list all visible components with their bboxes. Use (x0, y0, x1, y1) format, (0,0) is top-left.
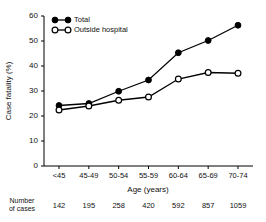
number-of-cases-value: 1059 (230, 201, 247, 210)
legend-label: Outside hospital (74, 25, 128, 34)
y-tick-label: 50 (29, 36, 38, 45)
y-tick-label: 20 (29, 111, 38, 120)
number-of-cases-value: 420 (142, 201, 155, 210)
y-tick-label: 30 (29, 86, 38, 95)
number-of-cases-value: 857 (202, 201, 215, 210)
x-tick-label: <45 (53, 171, 66, 180)
y-axis-title: Case fatality (%) (4, 61, 13, 120)
legend-marker (65, 27, 71, 33)
data-point-total (235, 22, 241, 28)
axis-group (44, 16, 253, 166)
data-point-outside-hospital (146, 94, 152, 100)
x-tick-label: 60-64 (169, 171, 188, 180)
number-of-cases-value: 592 (172, 201, 185, 210)
data-point-total (175, 50, 181, 56)
legend-label: Total (74, 15, 90, 24)
data-point-total (116, 88, 122, 94)
x-tick-label: 45-49 (79, 171, 98, 180)
x-axis-title: Age (years) (127, 185, 169, 194)
y-tick-label: 0 (34, 161, 39, 170)
chart-figure: 0102030405060 <4545-4950-5455-5960-6465-… (0, 0, 266, 222)
data-point-outside-hospital (56, 107, 62, 113)
data-point-total (146, 77, 152, 83)
y-tick-label: 10 (29, 136, 38, 145)
number-of-cases-row: Number of cases (9, 197, 36, 212)
chart-legend: TotalOutside hospital (52, 15, 128, 34)
x-tick-label: 65-69 (199, 171, 218, 180)
data-point-outside-hospital (235, 70, 241, 76)
series-line-total (59, 25, 238, 105)
data-point-outside-hospital (86, 103, 92, 109)
data-point-total (205, 38, 211, 44)
cases-row-label-line2: of cases (9, 205, 36, 212)
y-axis-ticks: 0102030405060 (29, 11, 44, 170)
x-axis-ticks: <4545-4950-5455-5960-6465-6970-74 (53, 166, 248, 180)
number-of-cases-values: 1421952584205928571059 (53, 201, 247, 210)
y-tick-label: 40 (29, 61, 38, 70)
series-layer (56, 22, 241, 113)
legend-marker (65, 17, 71, 23)
x-tick-label: 70-74 (228, 171, 247, 180)
x-tick-label: 50-54 (109, 171, 128, 180)
number-of-cases-value: 258 (112, 201, 125, 210)
y-tick-label: 60 (29, 11, 38, 20)
data-point-outside-hospital (175, 76, 181, 82)
data-point-outside-hospital (116, 97, 122, 103)
number-of-cases-value: 142 (53, 201, 66, 210)
number-of-cases-value: 195 (83, 201, 96, 210)
case-fatality-line-chart: 0102030405060 <4545-4950-5455-5960-6465-… (0, 0, 266, 222)
legend-marker (52, 27, 58, 33)
data-point-outside-hospital (205, 70, 211, 76)
cases-row-label-line1: Number (10, 197, 36, 204)
legend-marker (52, 17, 58, 23)
x-tick-label: 55-59 (139, 171, 158, 180)
